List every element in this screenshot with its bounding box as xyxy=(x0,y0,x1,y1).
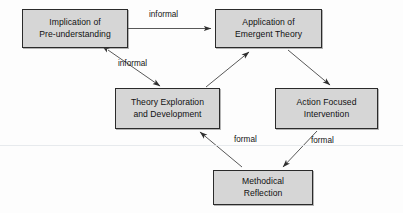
edge-label-formal-left: formal xyxy=(234,136,257,144)
node-methodical-reflection[interactable]: Methodical Reflection xyxy=(213,170,313,205)
edge-label-informal-left: informal xyxy=(118,60,147,68)
edge-theory-to-application xyxy=(206,52,249,87)
node-label: Theory Exploration and Development xyxy=(128,97,207,120)
action-research-diagram: Implication of Pre-understanding Applica… xyxy=(0,0,403,213)
node-label: Application of Emergent Theory xyxy=(232,17,305,40)
edge-label-formal-right: formal xyxy=(311,137,334,145)
node-action-focused-intervention[interactable]: Action Focused Intervention xyxy=(275,88,378,129)
node-label: Methodical Reflection xyxy=(239,176,287,199)
node-implication-pre-understanding[interactable]: Implication of Pre-understanding xyxy=(22,9,128,48)
node-theory-exploration-development[interactable]: Theory Exploration and Development xyxy=(115,88,220,129)
node-label: Action Focused Intervention xyxy=(294,97,360,120)
scan-artifact-line xyxy=(0,145,403,146)
node-label: Implication of Pre-understanding xyxy=(36,17,114,40)
edge-application-to-action xyxy=(288,50,330,85)
node-application-emergent-theory[interactable]: Application of Emergent Theory xyxy=(215,9,322,48)
edge-label-informal-top: informal xyxy=(149,11,178,19)
